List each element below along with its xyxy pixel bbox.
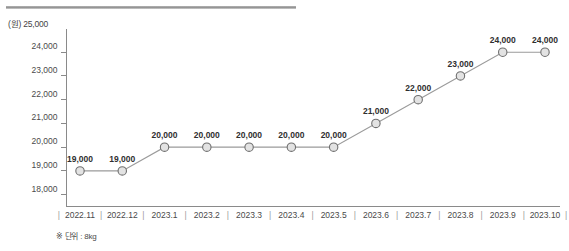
data-point-label: 19,000: [109, 154, 135, 164]
x-tick-label: 2022.11: [65, 210, 95, 220]
x-label-separator: |: [100, 210, 102, 220]
x-tick-label: 2023.1: [152, 210, 178, 220]
x-tick-label: 2023.2: [194, 210, 220, 220]
x-tick-label: 2023.9: [490, 210, 516, 220]
data-point-marker[interactable]: [499, 48, 507, 56]
data-point-label: 20,000: [152, 130, 178, 140]
x-tick-label: 2022.12: [107, 210, 138, 220]
x-label-separator: |: [185, 210, 187, 220]
data-point-label: 21,000: [363, 106, 389, 116]
data-point-marker[interactable]: [118, 167, 126, 175]
x-tick-label: 2023.3: [236, 210, 262, 220]
x-tick-label: 2023.4: [278, 210, 304, 220]
data-point-marker[interactable]: [372, 119, 380, 127]
y-tick-label: 24,000: [32, 41, 58, 51]
x-label-separator: |: [480, 210, 482, 220]
data-point-label: 24,000: [490, 35, 516, 45]
x-label-separator: |: [142, 210, 144, 220]
series-line-price: [80, 52, 545, 171]
data-point-label: 20,000: [278, 130, 304, 140]
x-label-separator: |: [354, 210, 356, 220]
line-chart: 18,00019,00020,00021,00022,00023,00024,0…: [0, 0, 569, 251]
x-label-separator: |: [311, 210, 313, 220]
y-tick-label: 19,000: [32, 160, 58, 170]
data-point-marker[interactable]: [456, 72, 464, 80]
data-point-marker[interactable]: [329, 143, 337, 151]
x-axis-labels: 2022.11|2022.12|2023.1|2023.2|2023.3|202…: [58, 210, 567, 220]
x-tick-label: 2023.7: [405, 210, 431, 220]
data-point-label: 23,000: [447, 59, 473, 69]
x-tick-label: 2023.10: [530, 210, 561, 220]
y-tick-label: 18,000: [32, 184, 58, 194]
data-point-marker[interactable]: [287, 143, 295, 151]
data-point-marker[interactable]: [245, 143, 253, 151]
axes-group: [67, 29, 561, 207]
x-label-separator: |: [227, 210, 229, 220]
x-tick-label: 2023.8: [447, 210, 473, 220]
data-point-label: 19,000: [67, 154, 93, 164]
data-point-label: 20,000: [321, 130, 347, 140]
y-tick-label: 23,000: [32, 65, 58, 75]
x-label-separator: |: [269, 210, 271, 220]
y-tick-label: 20,000: [32, 136, 58, 146]
data-point-label: 22,000: [405, 83, 431, 93]
data-point-marker[interactable]: [541, 48, 549, 56]
data-point-marker[interactable]: [414, 96, 422, 104]
data-point-marker[interactable]: [203, 143, 211, 151]
chart-page: (원) 25,000 18,00019,00020,00021,00022,00…: [0, 0, 569, 251]
y-tick-label: 21,000: [32, 112, 58, 122]
x-tick-label: 2023.6: [363, 210, 389, 220]
y-tick-label: 22,000: [32, 89, 58, 99]
x-label-separator: |: [565, 210, 567, 220]
x-label-separator: |: [58, 210, 60, 220]
data-point-label: 20,000: [194, 130, 220, 140]
data-points-group: 19,00019,00020,00020,00020,00020,00020,0…: [67, 35, 558, 175]
data-point-label: 24,000: [532, 35, 558, 45]
x-label-separator: |: [438, 210, 440, 220]
chart-footnote: ※ 단위 : 8kg: [56, 230, 97, 241]
data-point-marker[interactable]: [76, 167, 84, 175]
data-point-label: 20,000: [236, 130, 262, 140]
x-label-separator: |: [523, 210, 525, 220]
x-label-separator: |: [396, 210, 398, 220]
x-tick-label: 2023.5: [321, 210, 347, 220]
data-point-marker[interactable]: [160, 143, 168, 151]
y-axis-ticks: 18,00019,00020,00021,00022,00023,00024,0…: [32, 41, 67, 194]
